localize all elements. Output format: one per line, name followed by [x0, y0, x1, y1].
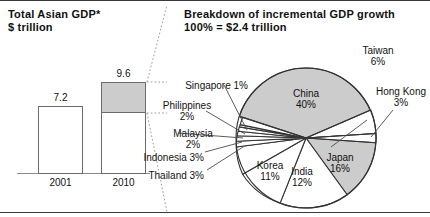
pie-label-korea-pct: 11%: [260, 171, 279, 182]
pie-label-china-pct: 40%: [296, 99, 316, 110]
pie-label-japan-name: Japan: [326, 152, 353, 163]
pie-callout-hongkong: Hong Kong 3%: [372, 86, 430, 108]
pie-callout-taiwan: Taiwan 6%: [352, 45, 404, 67]
figure-root: Total Asian GDP* $ trillion Breakdown of…: [0, 0, 430, 217]
pie-callout-indonesia: Indonesia 3%: [136, 152, 204, 163]
pie-callout-hongkong-name: Hong Kong: [376, 86, 426, 97]
pie-callout-taiwan-name: Taiwan: [362, 45, 393, 56]
pie-callout-malaysia-name: Malaysia: [173, 128, 212, 139]
pie-label-china: China 40%: [270, 88, 342, 110]
pie-callout-thailand: Thailand 3%: [138, 170, 204, 181]
pie-label-india-name: India: [291, 166, 313, 177]
pie-label-korea: Korea 11%: [247, 160, 293, 182]
pie-label-korea-name: Korea: [257, 160, 284, 171]
pie-label-japan-pct: 16%: [330, 163, 350, 174]
pie-callout-malaysia: Malaysia 2%: [166, 128, 220, 150]
pie-callout-philippines-name: Philippines: [163, 100, 211, 111]
pie-callout-philippines-pct: 2%: [180, 111, 194, 122]
pie-callout-singapore: Singapore 1%: [176, 80, 248, 91]
pie-callout-taiwan-pct: 6%: [371, 56, 385, 67]
pie-label-india-pct: 12%: [292, 177, 312, 188]
pie-callout-hongkong-pct: 3%: [394, 97, 408, 108]
pie-callout-malaysia-pct: 2%: [186, 139, 200, 150]
pie-callout-philippines: Philippines 2%: [158, 100, 216, 122]
pie-label-china-name: China: [293, 88, 319, 99]
